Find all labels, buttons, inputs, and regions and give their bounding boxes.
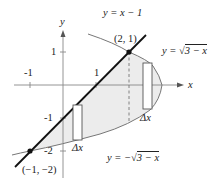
y-tick-label-neg2: -2 xyxy=(44,146,53,157)
point-label-neg1-neg2: (−1, −2) xyxy=(22,165,57,176)
point-2-1[interactable] xyxy=(126,49,131,54)
x-tick-label-1: 1 xyxy=(94,68,99,79)
delta-x-label-left: Δx xyxy=(72,143,83,154)
label-upper-prefix: y = xyxy=(162,45,179,56)
label-line-equation: y = x − 1 xyxy=(103,8,142,19)
representative-rectangle-right[interactable] xyxy=(143,63,152,109)
label-lower-prefix: y = − xyxy=(107,152,131,163)
figure: y x -1 1 1 -1 -2 y = x − 1 y = √3 − x y … xyxy=(0,0,214,180)
representative-rectangle-left[interactable] xyxy=(73,105,82,140)
point-label-2-1: (2, 1) xyxy=(114,34,137,45)
label-lower-parabola: y = −√3 − x xyxy=(107,153,159,164)
sqrt-icon: √ xyxy=(179,45,185,56)
delta-x-label-right: Δx xyxy=(140,113,151,124)
label-lower-radicand: 3 − x xyxy=(137,151,159,163)
y-tick-label-1: 1 xyxy=(51,47,56,58)
x-tick-label-neg1: -1 xyxy=(24,68,33,79)
sqrt-icon: √ xyxy=(131,152,137,163)
x-axis-arrow-icon xyxy=(177,83,184,88)
label-upper-parabola: y = √3 − x xyxy=(162,46,207,57)
y-axis-arrow-icon xyxy=(61,30,66,37)
x-axis-label: x xyxy=(188,80,193,91)
y-tick-label-neg1: -1 xyxy=(44,113,53,124)
y-axis-label: y xyxy=(60,17,65,28)
label-upper-radicand: 3 − x xyxy=(185,44,207,56)
point-neg1-neg2[interactable] xyxy=(27,148,32,153)
